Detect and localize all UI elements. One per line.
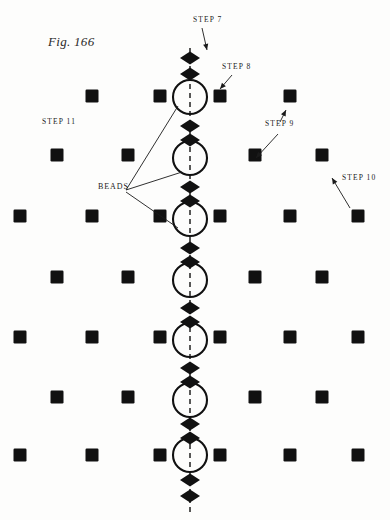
beads-leader-ring-3	[126, 192, 178, 228]
square-bead-r7-c1	[14, 449, 27, 462]
beadwork-diagram: Fig. 166 STEP 7STEP 8STEP 9STEP 10STEP 1…	[0, 0, 390, 520]
square-bead-r6-c4	[316, 391, 329, 404]
diamond-bead-9	[180, 302, 200, 315]
square-bead-r7-c6	[352, 449, 365, 462]
arrow-step-7-head	[203, 44, 208, 50]
square-bead-r5-c4	[214, 331, 227, 344]
square-bead-r6-c1	[51, 391, 64, 404]
square-bead-r3-c6	[352, 210, 365, 223]
diamond-bead-16	[180, 490, 200, 503]
label-step-9: STEP 9	[265, 119, 294, 128]
square-bead-r7-c2	[86, 449, 99, 462]
square-bead-r5-c3	[154, 331, 167, 344]
square-bead-r1-c2	[154, 90, 167, 103]
square-bead-r5-c6	[352, 331, 365, 344]
square-bead-r1-c4	[284, 90, 297, 103]
diamond-bead-6	[180, 195, 200, 208]
label-step-7: STEP 7	[193, 15, 222, 24]
diamond-bead-14	[180, 432, 200, 445]
figure-caption: Fig. 166	[47, 34, 95, 49]
label-beads: BEADS	[98, 182, 129, 191]
square-bead-r2-c2	[122, 149, 135, 162]
square-bead-r6-c3	[249, 391, 262, 404]
square-bead-r3-c1	[14, 210, 27, 223]
square-bead-r7-c5	[284, 449, 297, 462]
square-bead-r5-c1	[14, 331, 27, 344]
square-bead-r7-c4	[214, 449, 227, 462]
label-step-10: STEP 10	[342, 173, 376, 182]
square-bead-r1-c1	[86, 90, 99, 103]
square-bead-r4-c2	[122, 271, 135, 284]
label-step-8: STEP 8	[222, 62, 251, 71]
diamond-bead-7	[180, 242, 200, 255]
diamond-bead-8	[180, 256, 200, 269]
square-bead-r2-c1	[51, 149, 64, 162]
square-bead-r4-c1	[51, 271, 64, 284]
diamond-bead-10	[180, 316, 200, 329]
square-bead-r5-c5	[284, 331, 297, 344]
beads-leader-lines	[126, 106, 182, 228]
diamond-bead-11	[180, 362, 200, 375]
diamond-bead-15	[180, 474, 200, 487]
label-step-11: STEP 11	[42, 117, 76, 126]
callout-arrows	[202, 28, 350, 208]
square-bead-r3-c4	[214, 210, 227, 223]
arrow-step-10-head	[332, 178, 337, 184]
square-bead-r2-c4	[316, 149, 329, 162]
diamond-bead-12	[180, 376, 200, 389]
figure-page: Fig. 166 STEP 7STEP 8STEP 9STEP 10STEP 1…	[0, 0, 390, 520]
diamond-bead-2	[180, 68, 200, 81]
diamond-bead-5	[180, 181, 200, 194]
diamond-bead-13	[180, 418, 200, 431]
square-bead-r4-c4	[316, 271, 329, 284]
square-bead-r1-c3	[214, 90, 227, 103]
diamond-bead-1	[180, 52, 200, 65]
square-bead-r3-c5	[284, 210, 297, 223]
square-bead-r4-c3	[249, 271, 262, 284]
diamond-bead-3	[180, 120, 200, 133]
square-bead-r3-c2	[86, 210, 99, 223]
square-bead-r6-c2	[122, 391, 135, 404]
square-bead-r5-c2	[86, 331, 99, 344]
square-bead-r7-c3	[154, 449, 167, 462]
beads-leader-ring-1	[126, 106, 178, 190]
diamond-bead-4	[180, 134, 200, 147]
beads-leader-ring-2	[126, 172, 182, 190]
